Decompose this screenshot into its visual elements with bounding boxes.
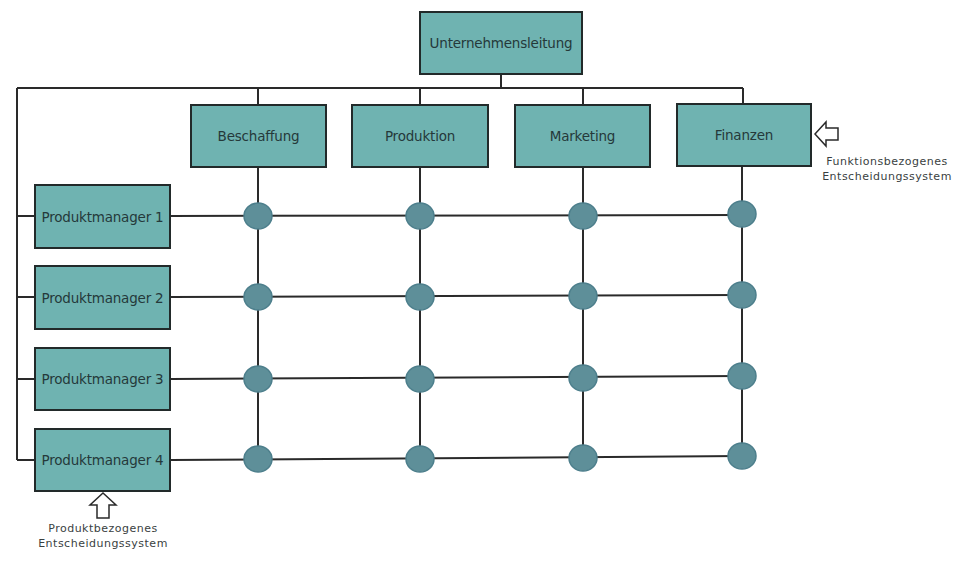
annotation-line-2: Entscheidungssystem	[812, 169, 962, 184]
arrow-up-icon	[90, 493, 116, 518]
box-function-finanzen: Finanzen	[676, 103, 812, 167]
annotation-product-system: Produktbezogenes Entscheidungssystem	[28, 521, 178, 551]
annotation-line-1: Funktionsbezogenes	[812, 154, 962, 169]
box-produktmanager-1: Produktmanager 1	[34, 184, 171, 249]
box-label: Produktmanager 4	[41, 452, 163, 468]
box-label: Marketing	[550, 128, 615, 144]
box-function-marketing: Marketing	[514, 104, 651, 168]
box-label: Beschaffung	[218, 128, 300, 144]
arrow-left-icon	[815, 122, 838, 146]
box-produktmanager-3: Produktmanager 3	[34, 347, 171, 411]
box-label: Finanzen	[715, 127, 773, 143]
annotation-line-1: Produktbezogenes	[28, 521, 178, 536]
intersection-nodes	[244, 201, 756, 472]
box-label: Produktmanager 1	[41, 209, 163, 225]
annotation-line-2: Entscheidungssystem	[28, 536, 178, 551]
annotation-function-system: Funktionsbezogenes Entscheidungssystem	[812, 154, 962, 184]
box-function-beschaffung: Beschaffung	[190, 104, 327, 168]
matrix-organization-diagram: Unternehmensleitung Beschaffung Produkti…	[0, 0, 962, 566]
box-unternehmensleitung: Unternehmensleitung	[419, 11, 583, 75]
box-label: Produktmanager 2	[41, 290, 163, 306]
box-label: Unternehmensleitung	[430, 35, 573, 51]
box-label: Produktmanager 3	[41, 371, 163, 387]
box-function-produktion: Produktion	[351, 104, 489, 168]
box-label: Produktion	[385, 128, 455, 144]
box-produktmanager-2: Produktmanager 2	[34, 265, 171, 330]
box-produktmanager-4: Produktmanager 4	[34, 428, 171, 492]
